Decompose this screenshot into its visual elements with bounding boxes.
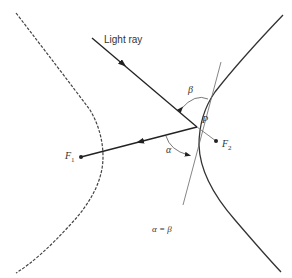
focus-2-label: F2 (222, 138, 232, 152)
focus-2-point (214, 139, 218, 143)
right-hyperbola-branch (199, 15, 283, 272)
point-p-label: P (202, 114, 208, 125)
angle-alpha-label: α (166, 144, 171, 155)
focus-1-point (79, 155, 83, 159)
focus-1-label: F1 (65, 150, 75, 164)
hyperbola-diagram: Light ray P β α F1 F2 α = β (0, 0, 292, 278)
angle-beta-label: β (188, 84, 193, 95)
incident-light-ray (92, 38, 197, 127)
angle-beta-arc (181, 97, 208, 109)
equation-label: α = β (152, 224, 172, 234)
reflected-light-ray (81, 127, 197, 157)
left-hyperbola-branch (16, 13, 103, 273)
light-ray-label: Light ray (104, 34, 142, 45)
diagram-svg (0, 0, 292, 278)
